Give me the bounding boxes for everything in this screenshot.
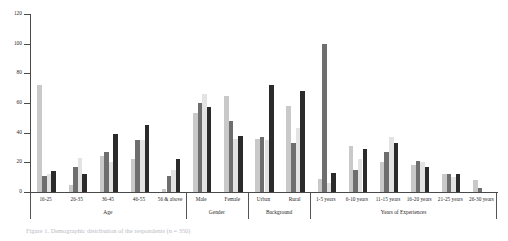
category-label: 6-10 years (341, 194, 372, 205)
y-tick-label: 100 (0, 41, 22, 46)
category-label: Male (186, 194, 217, 205)
axis-separator (310, 193, 311, 206)
y-tick (24, 162, 30, 163)
y-tick-label: 40 (0, 130, 22, 135)
bar (363, 149, 368, 192)
y-tick (24, 44, 30, 45)
bar (145, 125, 150, 192)
category-label: 21-25 years (435, 194, 466, 205)
group-label: Age (30, 207, 186, 218)
category-label: 46-55 (123, 194, 154, 205)
group-label: Background (248, 207, 310, 218)
y-tick (24, 73, 30, 74)
bars-layer (31, 14, 498, 192)
category-label: 16-20 years (404, 194, 435, 205)
group-label: Years of Experiences (310, 207, 497, 218)
bar (113, 134, 118, 192)
bar (331, 173, 336, 192)
figure-caption: Figure 1. Demographic distribution of th… (26, 226, 496, 235)
category-label: 16-25 (30, 194, 61, 205)
bar (456, 174, 461, 192)
y-tick-label: 20 (0, 159, 22, 164)
category-label: 36-45 (92, 194, 123, 205)
group-axis: AgeGenderBackgroundYears of Experiences (30, 206, 498, 219)
axis-separator (248, 193, 249, 206)
bar (425, 167, 430, 192)
y-tick (24, 133, 30, 134)
bar (300, 91, 305, 192)
group-label: Gender (186, 207, 248, 218)
category-label: Rural (279, 194, 310, 205)
y-tick-label: 0 (0, 189, 22, 194)
bar (238, 136, 243, 192)
bar (51, 171, 56, 192)
category-label: 26-35 (61, 194, 92, 205)
category-label: 26-30 years (466, 194, 497, 205)
y-tick (24, 14, 30, 15)
category-label: Urban (248, 194, 279, 205)
bar (478, 188, 483, 192)
category-label: 56 & above (155, 194, 186, 205)
y-tick-label: 120 (0, 11, 22, 16)
figure-container: 020406080100120 16-2526-3536-4546-5556 &… (0, 0, 508, 241)
bar (269, 85, 274, 192)
y-tick (24, 103, 30, 104)
y-tick-label: 60 (0, 100, 22, 105)
axis-separator (30, 193, 31, 206)
category-axis: 16-2526-3536-4546-5556 & aboveMaleFemale… (30, 193, 498, 206)
bar (176, 159, 181, 192)
bar (207, 107, 212, 192)
axis-separator (186, 193, 187, 206)
bar (82, 174, 87, 192)
category-label: Female (217, 194, 248, 205)
axis-separator (496, 193, 497, 206)
y-tick-label: 80 (0, 70, 22, 75)
bar (322, 44, 327, 192)
category-label: 1-5 years (310, 194, 341, 205)
bar (394, 143, 399, 192)
category-label: 11-15 years (372, 194, 403, 205)
